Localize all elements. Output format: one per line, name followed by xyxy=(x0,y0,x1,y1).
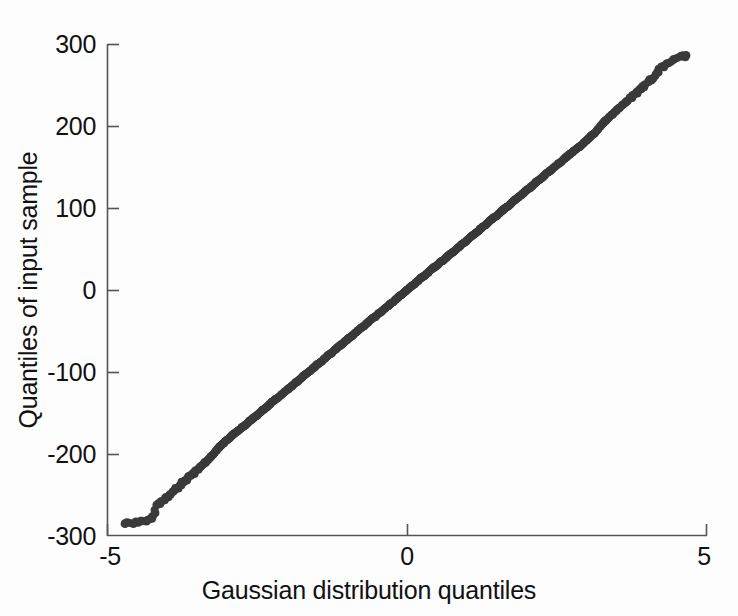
y-axis-label: Quantiles of input sample xyxy=(14,151,43,428)
y-axis-label-container: Quantiles of input sample xyxy=(10,0,46,616)
y-tick-label: 300 xyxy=(55,30,96,59)
x-axis-label: Gaussian distribution quantiles xyxy=(0,576,738,605)
x-tick-label: -5 xyxy=(99,542,121,571)
y-tick-label: -100 xyxy=(47,358,96,387)
x-tick-label: 0 xyxy=(400,542,414,571)
x-tick-label: 5 xyxy=(697,542,711,571)
plot-area xyxy=(107,44,707,536)
y-tick-label: -200 xyxy=(47,440,96,469)
y-tick-label: -300 xyxy=(47,522,96,551)
y-tick-label: 100 xyxy=(55,194,96,223)
y-tick-label: 0 xyxy=(82,276,96,305)
qq-plot-figure: 300 200 100 0 -100 -200 -300 -5 0 5 Gaus… xyxy=(0,0,738,616)
y-tick-label: 200 xyxy=(55,112,96,141)
scatter-series xyxy=(107,44,707,536)
